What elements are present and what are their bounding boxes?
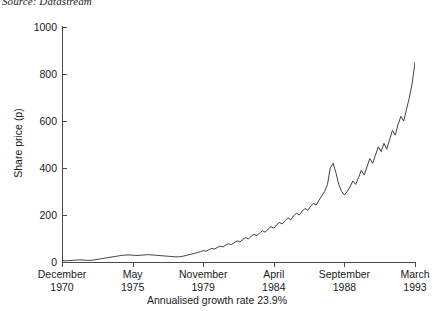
x-axis-line	[62, 262, 416, 263]
y-tick-label: 1000	[13, 22, 57, 32]
x-tick-mark	[203, 262, 204, 267]
x-tick-month: December	[38, 268, 86, 280]
y-tick-label: 600	[13, 116, 57, 126]
x-tick-year: 1993	[367, 281, 434, 294]
x-tick-mark	[133, 262, 134, 267]
x-tick-month: April	[263, 268, 284, 280]
x-tick-label: March1993	[367, 268, 434, 293]
y-tick-label: 800	[13, 69, 57, 79]
x-tick-month: March	[400, 268, 429, 280]
x-tick-mark	[415, 262, 416, 267]
x-tick-month: May	[123, 268, 143, 280]
y-tick-label: 400	[13, 163, 57, 173]
share-price-line	[62, 62, 415, 261]
x-tick-month: September	[319, 268, 370, 280]
y-axis-title: Share price (p)	[12, 78, 24, 208]
source-note: Source: Datastream	[2, 0, 92, 7]
series-canvas	[62, 27, 415, 262]
y-tick-label: 200	[13, 210, 57, 220]
y-tick-label: 0	[13, 257, 57, 267]
x-tick-mark	[62, 262, 63, 267]
x-tick-mark	[344, 262, 345, 267]
x-tick-mark	[274, 262, 275, 267]
chart-figure: Source: Datastream Share price (p) 02004…	[0, 0, 434, 311]
chart-caption: Annualised growth rate 23.9%	[0, 294, 434, 306]
plot-area	[62, 27, 415, 262]
x-tick-month: November	[179, 268, 227, 280]
